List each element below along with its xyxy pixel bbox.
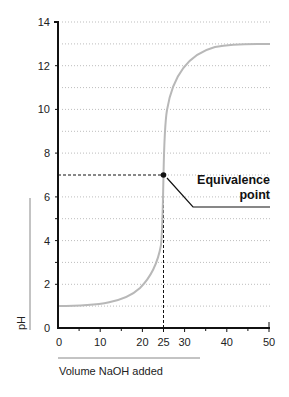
svg-text:8: 8: [44, 147, 50, 159]
x-axis-title: Volume NaOH added: [59, 365, 163, 377]
svg-text:10: 10: [38, 103, 50, 115]
svg-text:2: 2: [44, 278, 50, 290]
annotation-point: point: [239, 188, 270, 202]
svg-text:50: 50: [263, 336, 275, 348]
svg-text:12: 12: [38, 60, 50, 72]
svg-text:0: 0: [44, 322, 50, 334]
svg-text:6: 6: [44, 191, 50, 203]
svg-text:30: 30: [178, 336, 190, 348]
svg-text:14: 14: [38, 16, 50, 28]
y-tick-labels: 0 2 4 6 8 10 12 14: [38, 16, 50, 334]
svg-text:40: 40: [221, 336, 233, 348]
svg-text:25: 25: [157, 336, 169, 348]
gridlines: [62, 22, 270, 306]
x-tick-labels: 0 10 20 25 30 40 50: [56, 336, 275, 348]
y-axis-title: pH: [15, 316, 27, 330]
annotation-equivalence: Equivalence: [197, 173, 270, 187]
svg-text:0: 0: [56, 336, 62, 348]
titration-chart: 0 2 4 6 8 10 12 14 0 10 20 25 30 40 50 E…: [0, 0, 289, 397]
equivalence-point-marker: [161, 172, 167, 178]
svg-text:10: 10: [94, 336, 106, 348]
svg-text:4: 4: [44, 235, 50, 247]
svg-text:20: 20: [136, 336, 148, 348]
